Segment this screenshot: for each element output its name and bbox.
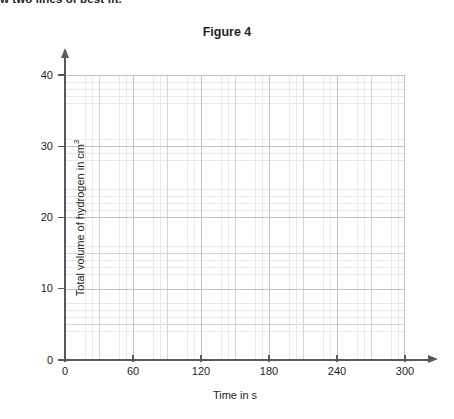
y-axis-line xyxy=(64,57,66,361)
y-axis-label-superscript: 3 xyxy=(72,140,81,144)
x-axis-label: Time in s xyxy=(65,389,405,401)
plot-grid-area xyxy=(65,75,405,360)
y-axis-arrow-icon xyxy=(61,48,69,58)
y-axis-tick xyxy=(58,74,65,75)
x-axis-tick xyxy=(132,355,133,362)
y-axis-tick xyxy=(58,217,65,218)
x-axis-arrow-icon xyxy=(428,355,438,363)
x-axis-tick-label: 120 xyxy=(176,366,226,377)
y-axis-tick-label: 10 xyxy=(13,283,53,294)
y-axis-tick-label: 30 xyxy=(13,141,53,152)
x-axis-tick-label: 180 xyxy=(244,366,294,377)
y-axis-label: Total volume of hydrogen in cm3 xyxy=(74,63,86,373)
y-axis-label-text: Total volume of hydrogen in cm xyxy=(74,144,86,296)
x-axis-tick-label: 60 xyxy=(108,366,158,377)
y-axis-tick xyxy=(58,288,65,289)
y-axis-tick xyxy=(58,146,65,147)
x-axis-tick xyxy=(404,355,405,362)
x-axis-tick xyxy=(200,355,201,362)
x-axis-tick xyxy=(268,355,269,362)
x-axis-tick-label: 240 xyxy=(312,366,362,377)
x-axis-tick xyxy=(336,355,337,362)
x-axis-tick-label: 300 xyxy=(380,366,430,377)
y-axis-tick-label: 0 xyxy=(13,355,53,366)
chart-area: 0 10 20 30 40 0 60 120 180 240 300 Total… xyxy=(0,0,454,419)
x-axis-tick xyxy=(64,355,65,362)
y-axis-tick-label: 20 xyxy=(13,212,53,223)
y-axis-tick-label: 40 xyxy=(13,70,53,81)
x-axis-line xyxy=(64,359,429,361)
